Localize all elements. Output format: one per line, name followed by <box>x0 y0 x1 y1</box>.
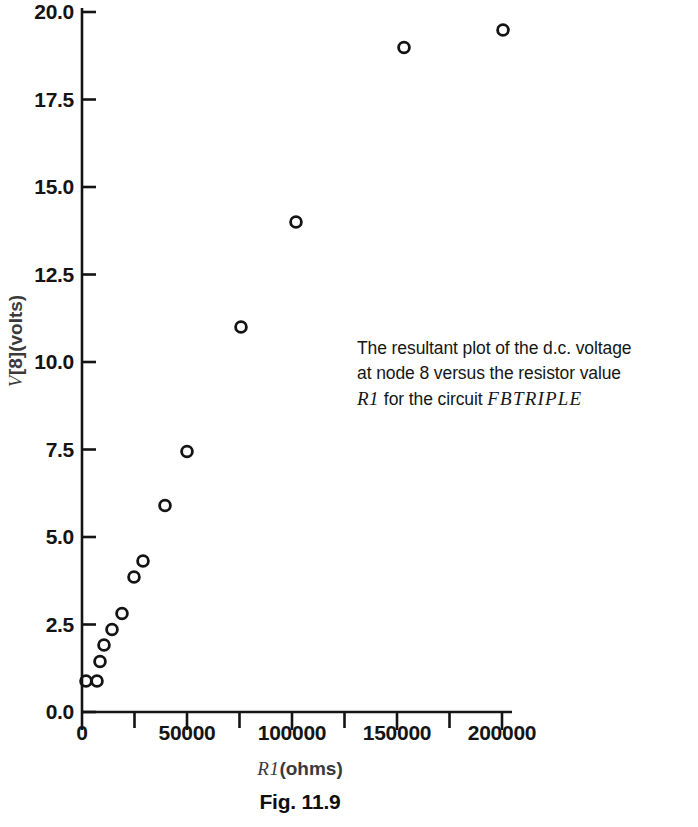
y-tick-label: 5.0 <box>18 526 74 547</box>
data-point <box>498 25 509 36</box>
y-tick-label: 15.0 <box>18 176 74 197</box>
x-tick-label: 200000 <box>468 722 536 743</box>
data-point <box>117 608 128 619</box>
figure-container: 20.0 17.5 15.0 12.5 10.0 7.5 5.0 2.5 0.0… <box>0 0 698 827</box>
data-point <box>160 500 171 511</box>
data-point <box>182 446 193 457</box>
y-tick-label: 17.5 <box>18 89 74 110</box>
data-point <box>92 676 103 687</box>
figure-caption: Fig. 11.9 <box>0 790 600 814</box>
y-axis-title-symbol: V <box>5 375 26 387</box>
x-tick-label: 100000 <box>258 722 326 743</box>
annotation-line-3: R1 for the circuit FBTRIPLE <box>357 386 687 413</box>
x-tick-label: 150000 <box>363 722 431 743</box>
y-tick-label: 7.5 <box>18 439 74 460</box>
x-axis-title-symbol: R1 <box>257 758 279 779</box>
data-point <box>129 572 140 583</box>
annotation-line-2: at node 8 versus the resistor value <box>357 361 687 386</box>
data-point <box>399 42 410 53</box>
x-axis-tick-labels: 0 50000 100000 150000 200000 <box>0 722 698 756</box>
annotation-symbol-r1: R1 <box>357 388 379 409</box>
data-point <box>138 556 149 567</box>
data-point <box>95 656 106 667</box>
annotation-line-1: The resultant plot of the d.c. voltage <box>357 336 687 361</box>
data-point <box>99 640 110 651</box>
x-tick-label: 50000 <box>159 722 216 743</box>
y-axis-title: V[8](volts) <box>5 241 27 441</box>
y-axis-title-units: [8](volts) <box>5 295 26 375</box>
y-tick-label: 20.0 <box>18 1 74 22</box>
data-point <box>236 322 247 333</box>
y-axis-ticks <box>82 12 96 712</box>
plot-annotation: The resultant plot of the d.c. voltage a… <box>357 336 687 413</box>
x-axis-title: R1(ohms) <box>0 758 600 780</box>
y-tick-label: 0.0 <box>18 701 74 722</box>
y-tick-label: 2.5 <box>18 614 74 635</box>
x-tick-label: 0 <box>76 722 87 743</box>
annotation-line-3-text: for the circuit <box>379 389 487 409</box>
data-point <box>291 217 302 228</box>
x-axis-title-units: (ohms) <box>279 758 342 779</box>
annotation-circuit-name: FBTRIPLE <box>487 388 582 409</box>
data-point <box>107 624 118 635</box>
scatter-plot-canvas <box>0 0 698 827</box>
